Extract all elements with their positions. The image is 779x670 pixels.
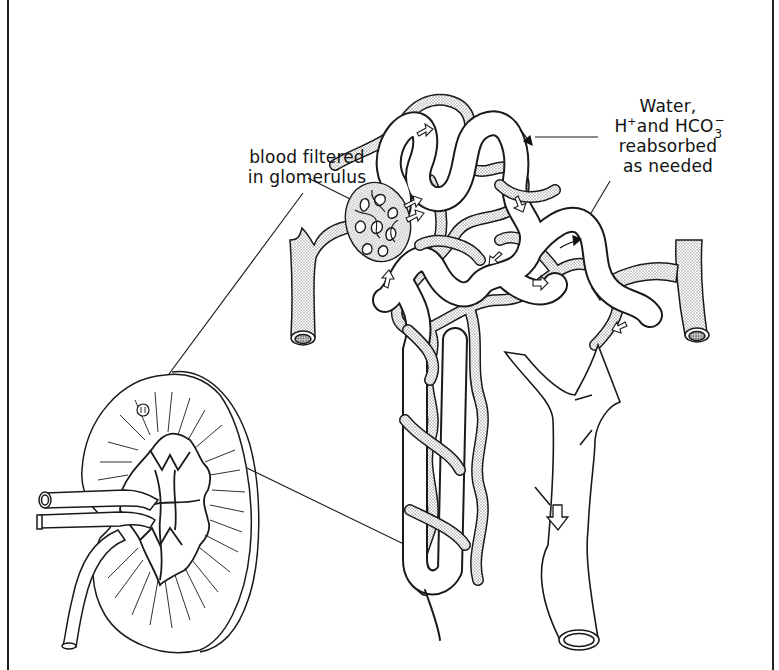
bicarbonate-subscript: 3 (715, 124, 723, 144)
hydrogen-symbol: H (614, 116, 627, 136)
glomerulus-label-line1: blood filtered (232, 147, 382, 167)
glomerulus-label-line2: in glomerulus (232, 167, 382, 187)
glomerulus-label: blood filtered in glomerulus (232, 147, 382, 187)
reabsorption-label: Water, H+ and HCO−3 reabsorbed as needed (598, 96, 738, 176)
reabsorption-label-line2: H+ and HCO−3 (598, 116, 738, 136)
reabsorption-label-line4: as needed (598, 156, 738, 176)
nephron-location-marker (137, 404, 149, 416)
frame-right-border (772, 0, 774, 670)
bicarbonate-symbol: and HCO (637, 116, 714, 136)
afferent-vessel (290, 220, 355, 345)
diagram-canvas: blood filtered in glomerulus Water, H+ a… (0, 0, 779, 670)
hydrogen-charge: + (627, 115, 636, 128)
frame-left-border (7, 0, 9, 670)
collecting-duct (505, 345, 620, 650)
inset-connector-line-upper (146, 193, 303, 405)
